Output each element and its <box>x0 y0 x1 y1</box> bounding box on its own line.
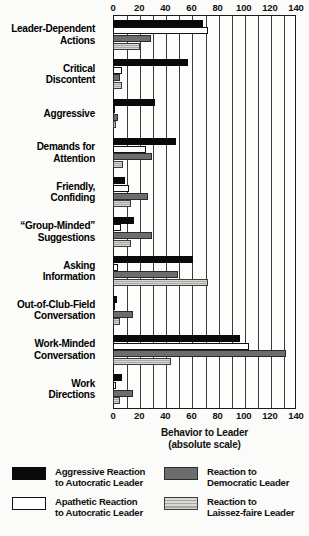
bars-container <box>113 330 296 369</box>
category-label-line: Confiding <box>0 192 95 204</box>
bars-container <box>113 133 296 172</box>
bar-0 <box>113 217 134 224</box>
category-label-line: Work-Minded <box>0 338 95 350</box>
bar-group: Demands forAttention <box>0 133 309 172</box>
bar-3 <box>113 358 171 365</box>
bar-0 <box>113 177 125 184</box>
category-label-line: Discontent <box>0 74 95 86</box>
category-label-line: Friendly, <box>0 181 95 193</box>
bar-0 <box>113 59 188 66</box>
x-tick-bottom-20: 20 <box>134 410 144 422</box>
category-label-line: Demands for <box>0 141 95 153</box>
bar-1 <box>113 106 115 113</box>
category-label-line: Information <box>0 271 95 283</box>
bar-1 <box>113 224 121 231</box>
x-tick-top-0: 0 <box>110 2 115 14</box>
x-tick-top-140: 140 <box>288 2 303 14</box>
bar-1 <box>113 146 146 153</box>
bar-3 <box>113 161 123 168</box>
bar-1 <box>113 303 115 310</box>
category-label-line: Actions <box>0 35 95 47</box>
bar-0 <box>113 99 155 106</box>
x-tick-bottom-0: 0 <box>110 410 115 422</box>
bar-0 <box>113 20 203 27</box>
category-label: CriticalDiscontent <box>0 63 95 86</box>
bar-3 <box>113 121 116 128</box>
x-tick-top-80: 80 <box>212 2 222 14</box>
bar-3 <box>113 240 131 247</box>
bar-1 <box>113 185 129 192</box>
bar-2 <box>113 74 120 81</box>
x-tick-top-60: 60 <box>186 2 196 14</box>
bars-container <box>113 15 296 54</box>
bar-group: WorkDirections <box>0 370 309 409</box>
bars-container <box>113 370 296 409</box>
category-label: Leader-DependentActions <box>0 23 95 46</box>
bar-0 <box>113 374 122 381</box>
category-label-line: Aggressive <box>0 108 95 120</box>
x-axis-top-ticks: 020406080100120140 <box>113 2 296 15</box>
category-label-line: Conversation <box>0 310 95 322</box>
category-label-line: Conversation <box>0 350 95 362</box>
bar-0 <box>113 138 176 145</box>
bar-group: Aggressive <box>0 94 309 133</box>
category-label-line: Out-of-Club-Field <box>0 299 95 311</box>
bar-3 <box>113 397 120 404</box>
bar-0 <box>113 296 117 303</box>
x-tick-bottom-120: 120 <box>262 410 277 422</box>
category-label-line: “Group-Minded” <box>0 220 95 232</box>
bar-group: Work-MindedConversation <box>0 330 309 369</box>
legend-label: Apathetic Reaction to Autocratic Leader <box>55 496 143 518</box>
legend-swatch-solid-black <box>12 467 46 480</box>
bar-0 <box>113 335 240 342</box>
x-tick-bottom-80: 80 <box>212 410 222 422</box>
category-label: AskingInformation <box>0 260 95 283</box>
bar-2 <box>113 271 178 278</box>
category-label: Friendly,Confiding <box>0 181 95 204</box>
bar-1 <box>113 27 208 34</box>
category-label-line: Suggestions <box>0 232 95 244</box>
x-axis-bottom-ticks: 020406080100120140 <box>113 410 296 423</box>
bars-container <box>113 173 296 212</box>
category-label: WorkDirections <box>0 378 95 401</box>
x-axis-title: Behavior to Leader (absolute scale) <box>113 427 296 451</box>
bar-1 <box>113 382 116 389</box>
category-label-line: Work <box>0 378 95 390</box>
bar-2 <box>113 232 152 239</box>
bar-3 <box>113 43 140 50</box>
x-tick-bottom-100: 100 <box>236 410 251 422</box>
bar-1 <box>113 343 249 350</box>
x-tick-bottom-140: 140 <box>288 410 303 422</box>
bar-3 <box>113 318 120 325</box>
bar-2 <box>113 153 152 160</box>
bar-rows: Leader-DependentActionsCriticalDisconten… <box>0 15 309 409</box>
x-tick-bottom-60: 60 <box>186 410 196 422</box>
bar-1 <box>113 264 118 271</box>
x-tick-top-40: 40 <box>160 2 170 14</box>
x-tick-top-20: 20 <box>134 2 144 14</box>
bars-container <box>113 212 296 251</box>
x-tick-top-100: 100 <box>236 2 251 14</box>
bar-3 <box>113 82 122 89</box>
legend-swatch-outline-white <box>12 497 46 510</box>
category-label: Demands forAttention <box>0 141 95 164</box>
bar-group: Friendly,Confiding <box>0 173 309 212</box>
bar-0 <box>113 256 193 263</box>
legend-label: Reaction to Laissez-faire Leader <box>207 496 294 518</box>
legend-label: Aggressive Reaction to Autocratic Leader <box>55 466 145 488</box>
bar-group: AskingInformation <box>0 251 309 290</box>
bar-2 <box>113 311 133 318</box>
bar-2 <box>113 350 286 357</box>
bar-2 <box>113 35 151 42</box>
category-label: “Group-Minded”Suggestions <box>0 220 95 243</box>
category-label-line: Critical <box>0 63 95 75</box>
bar-group: Leader-DependentActions <box>0 15 309 54</box>
category-label: Out-of-Club-FieldConversation <box>0 299 95 322</box>
bar-group: “Group-Minded”Suggestions <box>0 212 309 251</box>
bar-2 <box>113 114 118 121</box>
legend-swatch-hatched-light-gray <box>164 497 198 510</box>
bar-group: Out-of-Club-FieldConversation <box>0 291 309 330</box>
category-label-line: Asking <box>0 260 95 272</box>
bars-container <box>113 94 296 133</box>
bar-3 <box>113 279 208 286</box>
